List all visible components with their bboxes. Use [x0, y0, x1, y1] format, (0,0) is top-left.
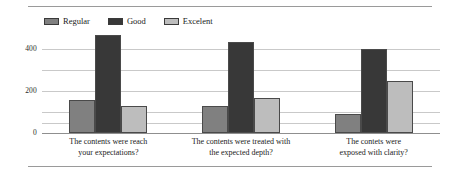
legend-swatch-excelent-icon: [164, 18, 179, 25]
x-label-expectations-line2: your expectations?: [44, 147, 173, 158]
top-divider-rule: [28, 6, 432, 7]
gridline-0-axis: [42, 133, 440, 134]
x-label-clarity-line1: The contets were: [309, 136, 438, 147]
y-tick-label-400: 400: [25, 45, 37, 53]
legend-swatch-good-icon: [108, 18, 123, 25]
bar-groups: [42, 28, 440, 133]
x-label-depth-line1: The contents were treated with: [177, 136, 306, 147]
x-label-expectations-line1: The contents were reach: [44, 136, 173, 147]
bar-group-clarity: [307, 28, 440, 133]
legend-label-excelent: Excelent: [183, 17, 213, 26]
bar-excelent-3: [387, 81, 413, 134]
x-label-expectations: The contents were reach your expectation…: [42, 136, 175, 158]
bar-regular-2: [202, 106, 228, 133]
legend-item-good: Good: [108, 17, 146, 26]
bar-group-depth: [175, 28, 308, 133]
bar-good-1: [95, 35, 121, 133]
bar-good-3: [361, 49, 387, 133]
chart-legend: Regular Good Excelent: [44, 17, 213, 26]
y-tick-label-0: 0: [33, 129, 37, 137]
x-label-clarity: The contets were exposed with clarity?: [307, 136, 440, 158]
legend-swatch-regular-icon: [44, 18, 59, 25]
x-label-clarity-line2: exposed with clarity?: [309, 147, 438, 158]
legend-label-regular: Regular: [63, 17, 90, 26]
legend-item-excelent: Excelent: [164, 17, 213, 26]
bar-regular-1: [69, 100, 95, 133]
legend-item-regular: Regular: [44, 17, 90, 26]
bar-chart-figure: Regular Good Excelent 400 200 0: [0, 0, 458, 173]
bar-excelent-2: [254, 98, 280, 133]
bar-excelent-1: [121, 106, 147, 133]
bar-good-2: [228, 42, 254, 133]
x-axis-labels: The contents were reach your expectation…: [42, 136, 440, 158]
x-label-depth-line2: the expected depth?: [177, 147, 306, 158]
bar-regular-3: [335, 114, 361, 133]
y-tick-label-200: 200: [25, 87, 37, 95]
bar-group-expectations: [42, 28, 175, 133]
x-label-depth: The contents were treated with the expec…: [175, 136, 308, 158]
bottom-divider-rule: [28, 166, 432, 167]
legend-label-good: Good: [127, 17, 146, 26]
